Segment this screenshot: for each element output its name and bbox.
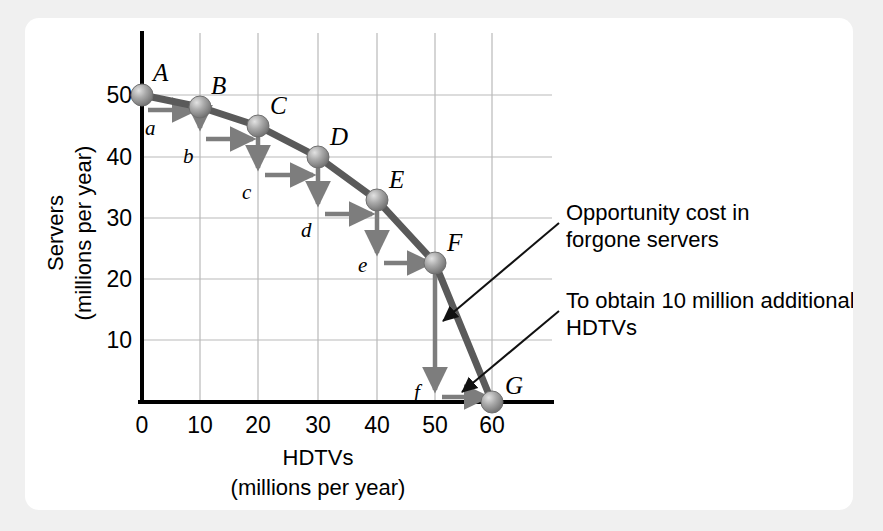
figure-panel: 50 40 30 20 10 0 10 20 30 40 50 60 bbox=[25, 18, 853, 510]
point-label-C: C bbox=[270, 92, 287, 119]
x-tick-50: 50 bbox=[422, 412, 448, 438]
point-label-E: E bbox=[388, 166, 404, 193]
point-label-B: B bbox=[211, 72, 226, 99]
callout-additional-hdtvs-line2: HDTVs bbox=[566, 315, 637, 340]
point-label-F: F bbox=[446, 229, 463, 256]
callout-opportunity-cost-line2: forgone servers bbox=[566, 227, 719, 252]
callout-additional-hdtvs-line1: To obtain 10 million additional bbox=[566, 288, 853, 313]
y-axis-subtitle: (millions per year) bbox=[71, 146, 96, 321]
x-axis-ticks: 0 10 20 30 40 50 60 bbox=[136, 412, 505, 438]
callout-opportunity-cost-line1: Opportunity cost in bbox=[566, 200, 749, 225]
y-tick-30: 30 bbox=[106, 205, 132, 231]
ppf-chart: 50 40 30 20 10 0 10 20 30 40 50 60 bbox=[25, 18, 853, 510]
data-point-E[interactable] bbox=[366, 189, 388, 211]
y-tick-10: 10 bbox=[106, 327, 132, 353]
step-label-e: e bbox=[358, 253, 367, 277]
chart-canvas: 50 40 30 20 10 0 10 20 30 40 50 60 bbox=[25, 18, 853, 510]
x-tick-40: 40 bbox=[364, 412, 390, 438]
y-axis-ticks: 50 40 30 20 10 bbox=[106, 82, 132, 353]
ppf-curve bbox=[142, 95, 492, 402]
step-label-d: d bbox=[301, 218, 312, 242]
y-tick-50: 50 bbox=[106, 82, 132, 108]
data-point-D[interactable] bbox=[307, 146, 329, 168]
x-tick-60: 60 bbox=[479, 412, 505, 438]
x-tick-30: 30 bbox=[305, 412, 331, 438]
x-tick-20: 20 bbox=[245, 412, 271, 438]
data-point-F[interactable] bbox=[424, 252, 446, 274]
data-point-G[interactable] bbox=[481, 391, 503, 413]
y-tick-40: 40 bbox=[106, 144, 132, 170]
figure-page: 50 40 30 20 10 0 10 20 30 40 50 60 bbox=[0, 0, 883, 531]
axis-titles: HDTVs (millions per year) Servers (milli… bbox=[43, 146, 405, 500]
y-axis-title: Servers bbox=[43, 195, 68, 271]
point-label-A: A bbox=[151, 59, 169, 86]
step-labels: a b c d e f bbox=[145, 116, 423, 404]
x-tick-10: 10 bbox=[187, 412, 213, 438]
x-axis-subtitle: (millions per year) bbox=[231, 475, 406, 500]
data-point-C[interactable] bbox=[247, 115, 269, 137]
data-point-A[interactable] bbox=[131, 84, 153, 106]
point-label-G: G bbox=[505, 372, 523, 399]
step-label-c: c bbox=[242, 180, 252, 204]
data-point-B[interactable] bbox=[189, 96, 211, 118]
grid-lines bbox=[142, 33, 552, 402]
point-label-D: D bbox=[329, 123, 348, 150]
step-label-a: a bbox=[145, 116, 156, 140]
x-tick-0: 0 bbox=[136, 412, 149, 438]
x-axis-title: HDTVs bbox=[283, 445, 354, 470]
step-label-b: b bbox=[183, 144, 194, 168]
y-tick-20: 20 bbox=[106, 266, 132, 292]
